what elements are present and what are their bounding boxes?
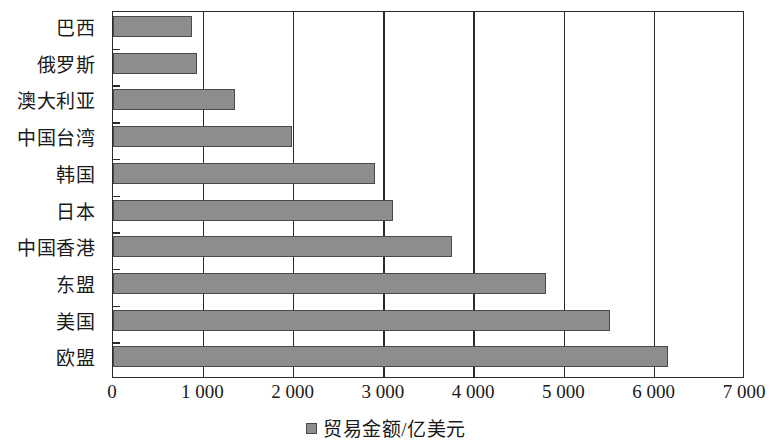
bar-band: [113, 232, 743, 269]
bar: [113, 200, 393, 221]
category-label: 澳大利亚: [17, 84, 95, 121]
bar: [113, 89, 235, 110]
bar-band: [113, 12, 743, 49]
bar: [113, 273, 546, 294]
bar-band: [113, 49, 743, 86]
bar: [113, 16, 192, 37]
x-tick-label: 6 000: [632, 381, 675, 403]
legend-entry: 贸易金额/亿美元: [306, 414, 465, 441]
bar: [113, 126, 292, 147]
category-label: 巴西: [56, 11, 95, 48]
legend-label: 贸易金额/亿美元: [323, 414, 465, 441]
x-tick-label: 2 000: [271, 381, 314, 403]
bar-band: [113, 159, 743, 196]
bar: [113, 163, 375, 184]
category-label: 俄罗斯: [37, 48, 96, 85]
category-label: 中国香港: [17, 231, 95, 268]
bar: [113, 236, 452, 257]
category-label: 东盟: [56, 268, 95, 305]
bar-band: [113, 196, 743, 233]
legend-swatch-icon: [306, 423, 317, 434]
y-axis-category-labels: 巴西俄罗斯澳大利亚中国台湾韩国日本中国香港东盟美国欧盟: [0, 11, 98, 378]
category-label: 中国台湾: [17, 121, 95, 158]
chart-legend: 贸易金额/亿美元: [0, 414, 772, 441]
category-label: 美国: [56, 305, 95, 342]
x-tick-label: 7 000: [723, 381, 766, 403]
category-label: 韩国: [56, 158, 95, 195]
bars: [113, 12, 743, 377]
bar-band: [113, 342, 743, 379]
x-tick-label: 1 000: [181, 381, 224, 403]
bar-band: [113, 122, 743, 159]
category-label: 欧盟: [56, 341, 95, 378]
x-tick-label: 3 000: [361, 381, 404, 403]
category-label: 日本: [56, 195, 95, 232]
x-tick-label: 0: [107, 381, 117, 403]
bar-band: [113, 269, 743, 306]
bar: [113, 53, 197, 74]
x-tick-label: 5 000: [542, 381, 585, 403]
bar: [113, 346, 668, 367]
bar-band: [113, 85, 743, 122]
bar: [113, 310, 610, 331]
plot-area: [112, 11, 744, 378]
bar-chart: 巴西俄罗斯澳大利亚中国台湾韩国日本中国香港东盟美国欧盟 01 0002 0003…: [0, 0, 772, 442]
x-axis-tick-labels: 01 0002 0003 0004 0005 0006 0007 000: [0, 381, 772, 411]
bar-band: [113, 306, 743, 343]
x-tick-label: 4 000: [452, 381, 495, 403]
